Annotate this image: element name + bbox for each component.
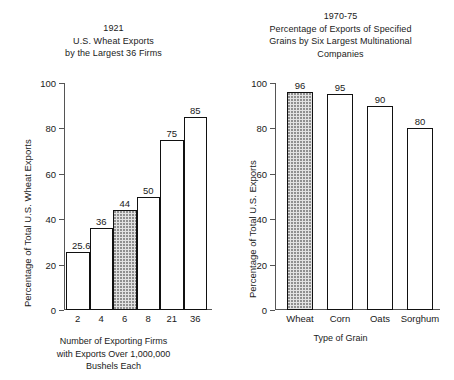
bar-right-3[interactable]: 80 Sorghum — [407, 128, 433, 310]
bar-left-2[interactable]: 44 6 — [113, 210, 137, 310]
plot-area-left: 0 20 40 60 80 100 — [64, 83, 212, 310]
chart-panel-right: 1970-75 Percentage of Exports of Specifi… — [227, 0, 454, 380]
chart-title-right-line-3: Grains by Six Largest Multinational — [227, 35, 454, 48]
y-tick-label-left-0: 0 — [51, 305, 56, 316]
x-axis-caption-left-line-3: Bushels Each — [0, 360, 227, 373]
y-tick-label-right-2: 40 — [256, 214, 267, 225]
x-axis-caption-right-line-1: Type of Grain — [227, 332, 454, 345]
y-axis-line-right — [275, 83, 276, 310]
chart-title-right-line-4: Companies — [227, 48, 454, 61]
bar-right-0[interactable]: 96 Wheat — [287, 92, 313, 310]
x-axis-caption-left: Number of Exporting Firms with Exports O… — [0, 335, 227, 373]
y-tick-label-right-1: 20 — [256, 259, 267, 270]
bar-value-right-2: 90 — [375, 94, 386, 105]
y-axis-title-left: Percentage of Total U.S. Wheat Exports — [22, 139, 33, 307]
bar-category-left-4: 21 — [166, 313, 177, 324]
x-axis-caption-right: Type of Grain — [227, 332, 454, 345]
figure: 1921 U.S. Wheat Exports by the Largest 3… — [0, 0, 454, 380]
y-tick-label-left-4: 80 — [45, 123, 56, 134]
bar-right-1[interactable]: 95 Corn — [327, 94, 353, 310]
y-tick-label-left-1: 20 — [45, 259, 56, 270]
chart-title-left: 1921 U.S. Wheat Exports by the Largest 3… — [0, 22, 227, 60]
chart-title-right-line-1: 1970-75 — [227, 10, 454, 23]
bar-value-right-3: 80 — [415, 116, 426, 127]
y-axis-line-left — [64, 83, 65, 310]
bar-category-right-2: Oats — [370, 313, 390, 324]
bar-left-5[interactable]: 85 36 — [184, 117, 208, 310]
chart-panel-left: 1921 U.S. Wheat Exports by the Largest 3… — [0, 0, 227, 380]
y-tick-label-left-3: 60 — [45, 168, 56, 179]
bar-value-left-2: 44 — [119, 198, 130, 209]
bar-category-left-1: 4 — [99, 313, 104, 324]
bar-category-right-1: Corn — [330, 313, 351, 324]
bar-category-left-3: 8 — [146, 313, 151, 324]
chart-title-left-line-2: U.S. Wheat Exports — [0, 35, 227, 48]
y-tick-label-left-2: 40 — [45, 214, 56, 225]
bar-category-right-3: Sorghum — [401, 313, 440, 324]
bar-left-0[interactable]: 25.6 2 — [66, 252, 90, 310]
bar-category-left-5: 36 — [190, 313, 201, 324]
bar-value-right-0: 96 — [295, 80, 306, 91]
y-tick-label-right-3: 60 — [256, 168, 267, 179]
bar-left-4[interactable]: 75 21 — [160, 140, 184, 310]
bar-value-left-3: 50 — [143, 185, 154, 196]
bar-value-right-1: 95 — [335, 82, 346, 93]
bar-left-1[interactable]: 36 4 — [90, 228, 114, 310]
bar-value-left-5: 85 — [190, 105, 201, 116]
bar-left-3[interactable]: 50 8 — [137, 197, 161, 311]
chart-title-right-line-2: Percentage of Exports of Specified — [227, 23, 454, 36]
bar-category-right-0: Wheat — [286, 313, 313, 324]
y-tick-label-left-5: 100 — [40, 78, 56, 89]
bar-category-left-0: 2 — [75, 313, 80, 324]
chart-title-left-line-3: by the Largest 36 Firms — [0, 47, 227, 60]
bar-value-left-4: 75 — [166, 128, 177, 139]
bar-right-2[interactable]: 90 Oats — [367, 106, 393, 310]
chart-title-right: 1970-75 Percentage of Exports of Specifi… — [227, 10, 454, 60]
x-axis-caption-left-line-2: with Exports Over 1,000,000 — [0, 348, 227, 361]
bar-value-left-0: 25.6 — [72, 240, 91, 251]
y-tick-label-right-5: 100 — [251, 78, 267, 89]
chart-title-left-line-1: 1921 — [0, 22, 227, 35]
bar-value-left-1: 36 — [96, 216, 107, 227]
bar-category-left-2: 6 — [122, 313, 127, 324]
y-tick-label-right-0: 0 — [262, 305, 267, 316]
x-axis-caption-left-line-1: Number of Exporting Firms — [0, 335, 227, 348]
y-axis-title-right: Percentage of Total U.S. Exports — [247, 160, 258, 298]
y-tick-label-right-4: 80 — [256, 123, 267, 134]
plot-area-right: 0 20 40 60 80 100 — [275, 83, 440, 310]
